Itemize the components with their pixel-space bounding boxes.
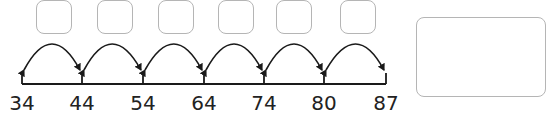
tick-label: 80 — [311, 92, 336, 114]
tick-label: 34 — [9, 92, 34, 114]
tick-label: 64 — [191, 92, 216, 114]
tick-label: 44 — [69, 92, 94, 114]
tick-label: 54 — [130, 92, 155, 114]
tick-label: 87 — [373, 92, 398, 114]
tick-label: 74 — [251, 92, 276, 114]
